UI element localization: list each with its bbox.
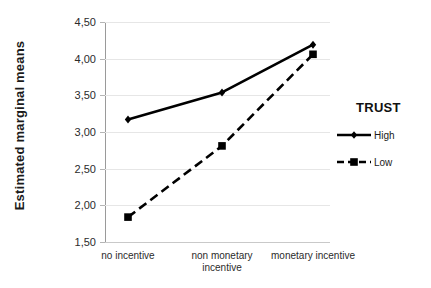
series-markers-low [124,51,317,221]
chart-figure: Estimated marginal means 4,50 4,00 3,50 … [0,0,431,288]
y-tick-label-3-00: 3,00 [75,126,96,138]
series-layer [105,22,330,242]
legend-label-high: High [374,130,395,141]
legend-swatch-high-icon [336,128,372,142]
series-line-low [128,54,313,217]
y-tick-label-1-50: 1,50 [75,236,96,248]
legend-item-low[interactable]: Low [336,155,431,169]
series-line-high [128,45,313,120]
x-tick-label-line-1: no incentive [82,250,174,262]
x-tick-label-line-2: incentive [176,262,268,274]
legend-label-low: Low [374,157,392,168]
plot-area: 4,50 4,00 3,50 3,00 2,50 2,00 1,50 [105,22,330,242]
legend-item-high[interactable]: High [336,128,431,142]
y-tick-label-2-50: 2,50 [75,163,96,175]
tick-mark-1-50 [100,242,105,243]
y-tick-label-2-00: 2,00 [75,199,96,211]
x-tick-label-non-monetary-incentive: non monetary incentive [176,250,268,274]
y-axis-title-container: Estimated marginal means [0,0,40,250]
y-axis-title: Estimated marginal means [13,40,28,210]
y-tick-label-4-50: 4,50 [75,16,96,28]
legend-title: TRUST [356,100,431,115]
legend-swatch-low-icon [336,155,372,169]
y-tick-label-3-50: 3,50 [75,89,96,101]
y-tick-label-4-00: 4,00 [75,53,96,65]
x-tick-label-no-incentive: no incentive [82,250,174,262]
x-tick-label-line-1: monetary incentive [267,250,359,262]
x-axis-line [105,242,330,243]
x-tick-label-monetary-incentive: monetary incentive [267,250,359,262]
x-tick-label-line-1: non monetary [176,250,268,262]
legend: TRUST High Low [336,100,431,169]
